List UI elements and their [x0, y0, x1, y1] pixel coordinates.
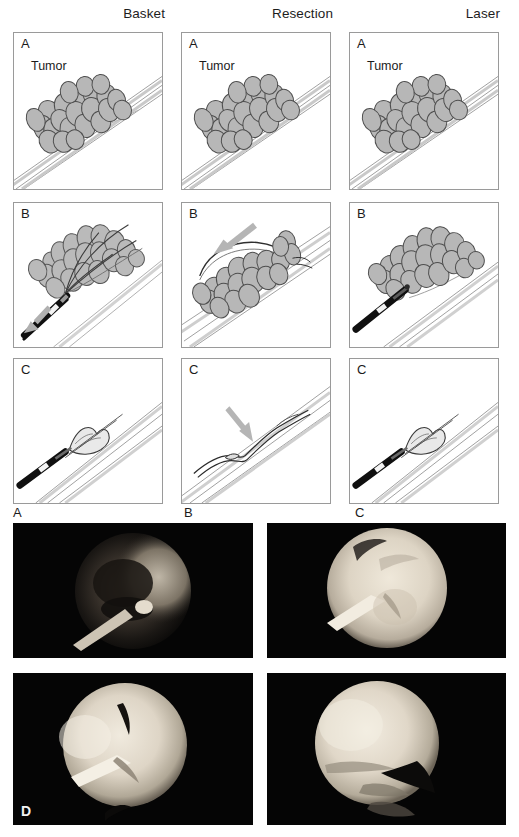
panel-basket-b: B — [13, 202, 163, 348]
panel-laser-a: A Tumor — [349, 32, 499, 190]
figure-root: Basket Resection Laser — [0, 0, 519, 837]
subfigure-letter-d: D — [21, 803, 31, 819]
illustration-basket-c — [14, 359, 162, 503]
panel-letter-laser-b: B — [357, 206, 366, 221]
panel-letter-laser-a: A — [357, 36, 366, 51]
panel-letter-resection-c: C — [189, 362, 198, 377]
illustration-resection-b — [182, 203, 330, 347]
panel-resection-b: B — [181, 202, 331, 348]
endoscopic-photo-top-right — [267, 523, 506, 658]
subfigure-letter-a: A — [13, 505, 22, 520]
panel-resection-c: C — [181, 358, 331, 504]
panel-letter-basket-a: A — [21, 36, 30, 51]
illustration-basket-b — [14, 203, 162, 347]
panel-laser-c: C — [349, 358, 499, 504]
panel-letter-basket-b: B — [21, 206, 30, 221]
arrow-shape — [225, 406, 253, 442]
subfigure-letter-b: B — [184, 505, 193, 520]
illustration-laser-b — [350, 203, 498, 347]
tumor-label-resection-a: Tumor — [199, 59, 235, 73]
tumor-label-laser-a: Tumor — [367, 59, 403, 73]
illustration-laser-c — [350, 359, 498, 503]
panel-basket-a: A Tumor — [13, 32, 163, 190]
panel-resection-a: A Tumor — [181, 32, 331, 190]
endoscopic-photo-top-left — [13, 523, 253, 658]
illustration-basket-a — [14, 33, 162, 189]
panel-basket-c: C — [13, 358, 163, 504]
panel-letter-laser-c: C — [357, 362, 366, 377]
subfigure-letter-c: C — [355, 505, 364, 520]
endoscopic-image-4 — [267, 673, 506, 825]
panel-letter-resection-b: B — [189, 206, 198, 221]
panel-laser-b: B — [349, 202, 499, 348]
column-header-resection: Resection — [228, 6, 333, 21]
illustration-resection-c — [182, 359, 330, 503]
panel-letter-resection-a: A — [189, 36, 198, 51]
illustration-laser-a — [350, 33, 498, 189]
endoscopic-photo-bottom-right — [267, 673, 506, 825]
illustration-resection-a — [182, 33, 330, 189]
endoscopic-image-1 — [13, 523, 253, 658]
column-header-basket: Basket — [60, 6, 165, 21]
endoscopic-image-3 — [13, 673, 253, 825]
endoscopic-photo-bottom-left: D — [13, 673, 253, 825]
endoscopic-image-2 — [267, 523, 506, 658]
tumor-label-basket-a: Tumor — [31, 59, 67, 73]
panel-letter-basket-c: C — [21, 362, 30, 377]
column-header-laser: Laser — [395, 6, 500, 21]
